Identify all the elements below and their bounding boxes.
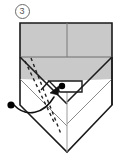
source-reference-dot — [7, 101, 14, 108]
origami-step-diagram: 3 — [0, 0, 127, 161]
origami-figure — [0, 0, 127, 161]
target-reference-dot — [59, 83, 65, 89]
